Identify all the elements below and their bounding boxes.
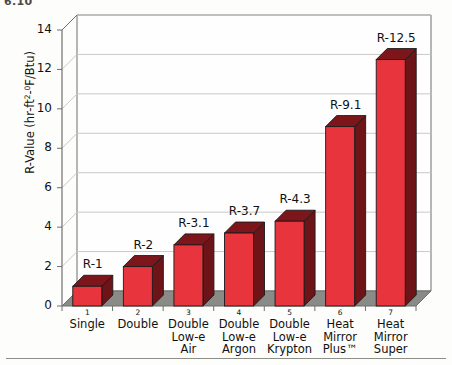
bar-column: [275, 210, 315, 306]
x-axis-category-line: Double: [212, 318, 266, 331]
x-axis-index-label: 2: [115, 308, 161, 317]
x-axis-category-line: Argon: [212, 343, 266, 356]
x-axis-index-label: 1: [64, 308, 110, 317]
x-axis-category-line: Krypton: [263, 343, 317, 356]
x-axis-category-label: HeatMirrorPlus™: [313, 318, 367, 356]
x-axis-category-line: Plus™: [313, 343, 367, 356]
y-axis-tick-label: 14: [30, 22, 52, 36]
bar-value-label: R-4.3: [268, 192, 322, 206]
x-axis-category-line: Super: [364, 343, 418, 356]
x-axis-category-label: DoubleLow-eArgon: [212, 318, 266, 356]
x-axis-category-label: HeatMirrorSuper: [364, 318, 418, 356]
x-axis-category-line: Heat: [364, 318, 418, 331]
x-axis-index-label: 6: [317, 308, 363, 317]
bar-column: [225, 222, 265, 306]
x-axis-category-line: Double: [263, 318, 317, 331]
bar-value-label: R-12.5: [369, 31, 423, 45]
y-axis-tick-label: 12: [30, 61, 52, 75]
x-axis-category-label: DoubleLow-eAir: [161, 318, 215, 356]
bar-value-label: R-1: [66, 257, 120, 271]
x-axis-index-label: 5: [267, 308, 313, 317]
x-axis-category-line: Double: [111, 318, 165, 331]
bar-value-label: R-9.1: [319, 98, 373, 112]
y-axis-tick-label: 2: [30, 259, 52, 273]
footer-rule: [6, 358, 446, 359]
figure-root: 6.10 R-Value (hr-ft2-0F/Btu) 02468101214…: [0, 0, 452, 365]
bar-column: [73, 275, 113, 306]
y-axis-tick-label: 4: [30, 219, 52, 233]
bar-value-label: R-3.7: [218, 204, 272, 218]
bar-column: [326, 116, 366, 306]
y-axis-tick-label: 8: [30, 140, 52, 154]
bar-value-label: R-2: [116, 238, 170, 252]
x-axis-category-label: Single: [60, 318, 114, 331]
x-axis-index-label: 7: [368, 308, 414, 317]
bar-column: [123, 256, 163, 306]
bar-column: [174, 234, 214, 306]
x-axis-index-label: 3: [165, 308, 211, 317]
y-axis-tick-label: 0: [30, 298, 52, 312]
x-axis-category-line: Air: [161, 343, 215, 356]
y-axis-tick-label: 6: [30, 180, 52, 194]
bar-value-label: R-3.1: [167, 216, 221, 230]
bar-column: [376, 49, 416, 306]
x-axis-category-line: Heat: [313, 318, 367, 331]
x-axis-category-line: Single: [60, 318, 114, 331]
x-axis-category-line: Double: [161, 318, 215, 331]
x-axis-category-label: Double: [111, 318, 165, 331]
y-axis-tick-label: 10: [30, 101, 52, 115]
x-axis-category-label: DoubleLow-eKrypton: [263, 318, 317, 356]
x-axis-index-label: 4: [216, 308, 262, 317]
